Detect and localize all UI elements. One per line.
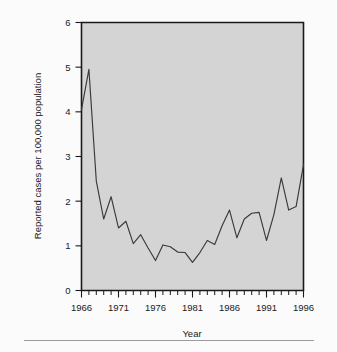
y-tick-label: 3: [65, 151, 70, 162]
x-tick-label: 1966: [71, 302, 92, 313]
plot-area-background: [82, 23, 304, 291]
line-chart: 1966197119761981198619911996 0123456 Yea…: [0, 0, 337, 352]
x-tick-label: 1996: [293, 302, 314, 313]
x-tick-label: 1986: [219, 302, 240, 313]
x-tick-label: 1971: [108, 302, 129, 313]
y-tick-label: 0: [65, 285, 70, 296]
x-tick-label: 1976: [145, 302, 166, 313]
y-tick-label: 2: [65, 196, 70, 207]
footer-divider: [24, 340, 314, 341]
y-axis-ticks: [76, 23, 82, 291]
x-axis-ticks: [82, 291, 304, 298]
y-axis-tick-labels: 0123456: [65, 17, 70, 296]
y-tick-label: 5: [65, 62, 70, 73]
y-tick-label: 6: [65, 17, 70, 28]
x-axis-title: Year: [182, 328, 201, 339]
y-tick-label: 1: [65, 240, 70, 251]
chart-figure: 1966197119761981198619911996 0123456 Yea…: [0, 0, 337, 352]
x-axis-tick-labels: 1966197119761981198619911996: [71, 302, 314, 313]
y-tick-label: 4: [65, 106, 70, 117]
x-tick-label: 1981: [182, 302, 203, 313]
x-tick-label: 1991: [256, 302, 277, 313]
y-axis-title: Reported cases per 100,000 population: [32, 73, 43, 239]
